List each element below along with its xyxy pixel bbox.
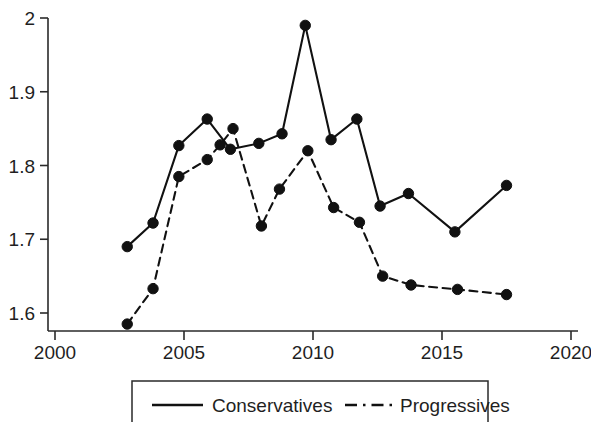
chart-legend: ConservativesProgressives — [132, 381, 510, 422]
data-point-marker — [501, 289, 511, 299]
data-series-layer — [122, 20, 512, 329]
legend-label: Progressives — [400, 395, 510, 416]
y-axis-tick-label: 1.9 — [9, 82, 35, 103]
y-axis-tick-label: 1.7 — [9, 229, 35, 250]
y-axis-tick-label: 1.8 — [9, 156, 35, 177]
data-point-marker — [375, 201, 385, 211]
data-point-marker — [202, 114, 212, 124]
chart-figure: 1.61.71.81.92 20002005201020152020 Conse… — [0, 0, 591, 422]
data-point-marker — [148, 283, 158, 293]
x-axis: 20002005201020152020 — [34, 331, 591, 363]
series-line — [127, 25, 506, 246]
y-axis-tick-label: 2 — [24, 8, 35, 29]
data-point-marker — [274, 184, 284, 194]
data-point-marker — [326, 134, 336, 144]
data-point-marker — [228, 123, 238, 133]
data-point-marker — [354, 217, 364, 227]
data-point-marker — [501, 180, 511, 190]
data-point-marker — [174, 171, 184, 181]
data-point-marker — [406, 280, 416, 290]
data-point-marker — [377, 271, 387, 281]
data-point-marker — [277, 129, 287, 139]
data-point-marker — [202, 154, 212, 164]
x-axis-ticks — [55, 331, 571, 340]
data-point-marker — [148, 218, 158, 228]
y-axis-ticks — [40, 18, 48, 313]
legend-label: Conservatives — [212, 395, 332, 416]
data-point-marker — [352, 114, 362, 124]
data-point-marker — [303, 146, 313, 156]
x-axis-tick-label: 2020 — [550, 342, 591, 363]
data-point-marker — [403, 188, 413, 198]
y-axis: 1.61.71.81.92 — [9, 8, 48, 331]
data-point-marker — [254, 138, 264, 148]
series-conservatives — [122, 20, 512, 252]
x-axis-tick-label: 2005 — [163, 342, 205, 363]
data-point-marker — [328, 202, 338, 212]
data-point-marker — [122, 319, 132, 329]
data-point-marker — [452, 284, 462, 294]
x-axis-tick-label: 2015 — [421, 342, 463, 363]
y-axis-tick-label: 1.6 — [9, 303, 35, 324]
data-point-marker — [256, 221, 266, 231]
data-point-marker — [174, 140, 184, 150]
data-point-marker — [450, 227, 460, 237]
x-axis-tick-labels: 20002005201020152020 — [34, 342, 591, 363]
data-point-marker — [215, 140, 225, 150]
data-point-marker — [225, 144, 235, 154]
line-chart: 1.61.71.81.92 20002005201020152020 Conse… — [0, 0, 591, 422]
x-axis-tick-label: 2010 — [292, 342, 334, 363]
data-point-marker — [122, 241, 132, 251]
y-axis-tick-labels: 1.61.71.81.92 — [9, 8, 35, 324]
data-point-marker — [300, 20, 310, 30]
series-progressives — [122, 123, 512, 329]
x-axis-tick-label: 2000 — [34, 342, 76, 363]
